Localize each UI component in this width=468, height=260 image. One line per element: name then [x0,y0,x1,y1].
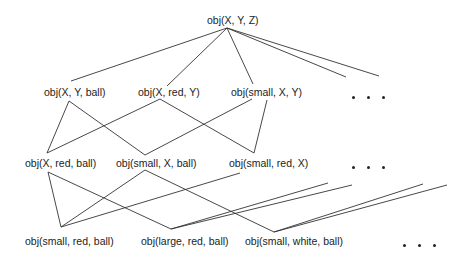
node-level3-1: obj(small, red, ball) [25,235,114,247]
edge [227,28,346,77]
edge [48,172,171,229]
dot-icon [367,166,370,169]
edge [69,101,145,155]
edge [274,185,447,232]
dot-icon [367,96,370,99]
edge [227,28,379,76]
dot-icon [433,244,436,247]
dot-icon [352,166,355,169]
node-level1-3: obj(small, X, Y) [231,86,302,98]
node-level2-3: obj(small, red, X) [229,157,308,169]
edge [145,170,274,232]
edge [160,99,254,153]
dot-icon [382,96,385,99]
edge [47,101,69,153]
dot-icon [382,166,385,169]
node-level2-2: obj(small, X, ball) [116,157,197,169]
edge [145,99,252,155]
edges-layer [0,0,468,260]
node-level1-1: obj(X, Y, ball) [44,86,105,98]
edge [71,28,227,81]
node-level2-1: obj(X, red, ball) [25,157,96,169]
edge [167,28,227,86]
dot-icon [403,244,406,247]
edge [61,170,145,227]
edge [47,99,160,153]
dot-icon [352,96,355,99]
dot-icon [418,244,421,247]
edge [274,184,423,232]
edge [227,28,253,84]
node-level3-3: obj(small, white, ball) [245,235,343,247]
node-level3-2: obj(large, red, ball) [141,235,229,247]
node-root: obj(X, Y, Z) [207,14,259,26]
edge [48,172,61,227]
edge [171,185,352,229]
node-level1-2: obj(X, red, Y) [138,86,200,98]
edge [254,100,267,153]
